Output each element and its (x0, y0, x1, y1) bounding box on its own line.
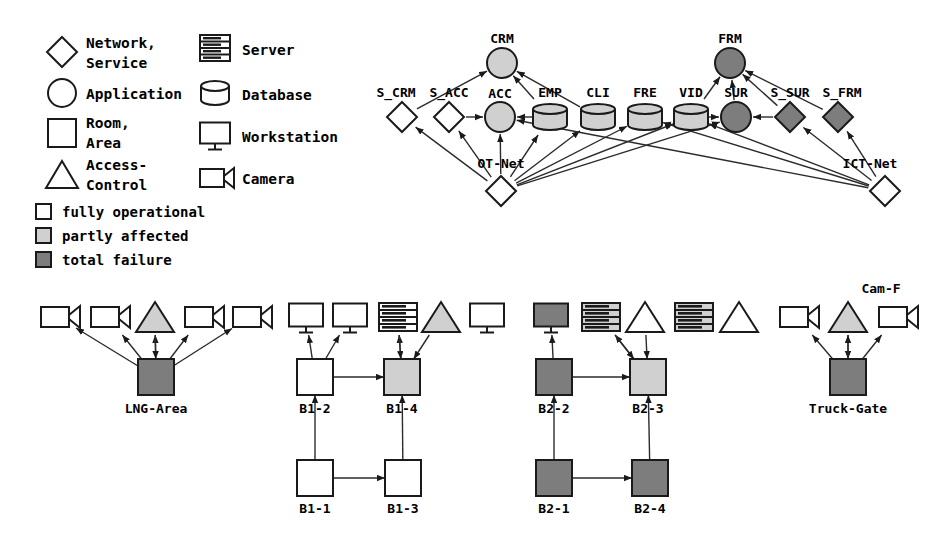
node-FRE[interactable] (628, 104, 662, 130)
node-Cam-F[interactable] (879, 306, 918, 328)
node-EMP[interactable] (533, 104, 567, 130)
triangle-icon (422, 302, 460, 332)
node-ws-b1b[interactable] (333, 304, 367, 333)
node-Truck-Gate[interactable] (830, 359, 866, 395)
legend-swatch-partly-affected (36, 228, 51, 243)
node-cam-l4[interactable] (233, 306, 272, 328)
node-ac-t1[interactable] (829, 302, 867, 332)
circle-icon (715, 48, 745, 78)
node-S_CRM[interactable] (387, 102, 417, 132)
node-cam-l1[interactable] (41, 306, 80, 328)
legend-circle-icon (48, 79, 76, 107)
server-led (678, 326, 702, 329)
edge-LNG-Area-to-cam-l2 (122, 335, 141, 359)
node-B1-1[interactable] (297, 460, 333, 496)
camera-icon (233, 307, 261, 327)
node-label-OT-Net: OT-Net (478, 156, 525, 171)
edge-OT-Net-to-S_CRM (416, 127, 488, 181)
node-B1-2[interactable] (297, 359, 333, 395)
node-B2-1[interactable] (536, 460, 572, 496)
node-SUR[interactable] (721, 102, 751, 132)
node-label-B1-1: B1-1 (299, 501, 330, 516)
legend-status-label-fully-operational: fully operational (62, 204, 205, 220)
node-B2-3[interactable] (630, 359, 666, 395)
camera-icon (879, 307, 907, 327)
node-LNG-Area[interactable] (138, 359, 174, 395)
legend-label-workstation: Workstation (242, 129, 338, 145)
legend-triangle-icon (46, 161, 78, 188)
node-CRM[interactable] (487, 48, 517, 78)
legend-label-database: Database (242, 87, 312, 103)
node-ac-b2b[interactable] (720, 302, 758, 332)
diamond-icon (434, 102, 464, 132)
node-cam-l3[interactable] (185, 306, 224, 328)
node-ws-b1c[interactable] (470, 304, 504, 333)
node-ac-l1[interactable] (136, 302, 174, 332)
server-led (382, 326, 406, 329)
node-VID[interactable] (674, 104, 708, 130)
node-srv-b1[interactable] (379, 303, 417, 331)
legend-label-application: Application (86, 86, 182, 102)
node-ac-b2a[interactable] (626, 302, 664, 332)
node-B1-3[interactable] (385, 460, 421, 496)
node-cam-l2[interactable] (91, 306, 130, 328)
edge-Truck-Gate-to-cam-t1 (812, 335, 832, 359)
legend-workstation-icon (200, 123, 230, 150)
workstation-icon (333, 304, 367, 327)
node-B2-4[interactable] (632, 460, 668, 496)
node-srv-b2b[interactable] (675, 303, 713, 331)
square-icon (830, 359, 866, 395)
node-label-B2-4: B2-4 (634, 501, 665, 516)
node-B1-4[interactable] (384, 359, 420, 395)
triangle-icon (720, 302, 758, 332)
node-label-B2-2: B2-2 (538, 401, 569, 416)
edge-VID-to-FRM (704, 77, 720, 99)
node-S_FRM[interactable] (823, 102, 853, 132)
server-led (678, 319, 702, 322)
edge-ICT-Net-to-VID (709, 124, 869, 185)
node-ACC[interactable] (485, 102, 515, 132)
legend-database-icon (201, 81, 229, 105)
legend-label-room-area: Area (86, 135, 121, 151)
node-ws-b2a[interactable] (534, 304, 568, 333)
node-label-Truck-Gate: Truck-Gate (809, 401, 887, 416)
legend-diamond-icon (47, 37, 77, 67)
camera-lens (69, 306, 80, 328)
square-icon (385, 460, 421, 496)
node-S_ACC[interactable] (434, 102, 464, 132)
legend-swatch-total-failure (36, 252, 51, 267)
edge-Truck-Gate-to-Cam-F (862, 335, 881, 359)
camera-lens (808, 306, 819, 328)
edge-LNG-Area-to-cam-l1 (76, 328, 138, 366)
node-label-layer: CRMFRMS_CRMS_ACCACCEMPCLIFREVIDSURS_SURS… (125, 31, 901, 516)
server-led (585, 319, 609, 322)
square-icon (138, 359, 174, 395)
node-ws-b1a[interactable] (289, 304, 323, 333)
node-ac-b1[interactable] (422, 302, 460, 332)
node-ICT-Net[interactable] (870, 176, 900, 206)
infrastructure-dependency-diagram: CRMFRMS_CRMS_ACCACCEMPCLIFREVIDSURS_SURS… (0, 0, 940, 535)
legend-label-network-service: Service (86, 55, 147, 71)
node-FRM[interactable] (715, 48, 745, 78)
server-led (382, 319, 406, 322)
camera-icon (91, 307, 119, 327)
node-OT-Net[interactable] (486, 176, 516, 206)
legend-status-label-partly-affected: partly affected (62, 228, 188, 244)
node-S_SUR[interactable] (775, 102, 805, 132)
square-icon (536, 359, 572, 395)
diamond-icon (486, 176, 516, 206)
server-led (585, 312, 609, 315)
legend-layer: Network,ServiceApplicationRoom,AreaAcces… (36, 35, 338, 268)
node-CLI[interactable] (581, 104, 615, 130)
legend-status-label-total-failure: total failure (62, 252, 172, 268)
square-icon (384, 359, 420, 395)
camera-icon (41, 307, 69, 327)
node-B2-2[interactable] (536, 359, 572, 395)
square-icon (297, 460, 333, 496)
node-label-B1-4: B1-4 (386, 401, 417, 416)
database-icon (674, 104, 708, 130)
node-cam-t1[interactable] (780, 306, 819, 328)
node-srv-b2a[interactable] (582, 303, 620, 331)
edge-srv-b2a-to-B2-3 (615, 335, 634, 359)
server-led (678, 312, 702, 315)
